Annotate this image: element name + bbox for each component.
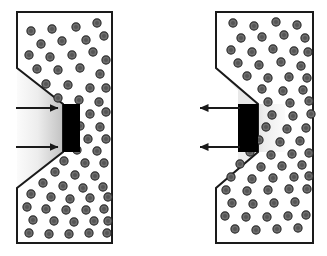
left-wedge	[63, 104, 80, 152]
particle-core	[306, 50, 310, 54]
particle-core	[272, 201, 276, 205]
particle-core	[66, 83, 70, 87]
particle-core	[274, 20, 278, 24]
particle-core	[280, 164, 284, 168]
particle-core	[285, 127, 289, 131]
particle-core	[265, 215, 269, 219]
particle-core	[290, 152, 294, 156]
particle-core	[278, 140, 282, 144]
particle-core	[93, 174, 97, 178]
particle-core	[300, 163, 304, 167]
particle-core	[106, 195, 110, 199]
particle-core	[86, 137, 90, 141]
particle-core	[104, 86, 108, 90]
particle-core	[229, 175, 233, 179]
particle-core	[260, 87, 264, 91]
particle-core	[266, 76, 270, 80]
particle-core	[88, 112, 92, 116]
particle-core	[292, 49, 296, 53]
particle-core	[68, 197, 72, 201]
particle-core	[27, 231, 31, 235]
particle-core	[73, 173, 77, 177]
particle-core	[301, 88, 305, 92]
particle-core	[72, 220, 76, 224]
particle-core	[231, 21, 235, 25]
particle-core	[60, 39, 64, 43]
particle-core	[296, 226, 300, 230]
particle-core	[102, 34, 106, 38]
particle-core	[101, 185, 105, 189]
particle-core	[52, 219, 56, 223]
particle-core	[62, 159, 66, 163]
particle-core	[304, 213, 308, 217]
particle-core	[106, 219, 110, 223]
particle-core	[259, 165, 263, 169]
particle-core	[77, 98, 81, 102]
particle-core	[298, 139, 302, 143]
particle-core	[50, 27, 54, 31]
particle-core	[251, 202, 255, 206]
particle-core	[70, 53, 74, 57]
particle-core	[91, 50, 95, 54]
particle-core	[56, 96, 60, 100]
particle-core	[303, 36, 307, 40]
particle-core	[307, 151, 311, 155]
particle-core	[281, 89, 285, 93]
particle-core	[98, 125, 102, 129]
particle-core	[287, 75, 291, 79]
particle-core	[29, 192, 33, 196]
particle-core	[238, 162, 242, 166]
particle-core	[229, 48, 233, 52]
particle-core	[282, 33, 286, 37]
particle-core	[233, 227, 237, 231]
particle-core	[49, 195, 53, 199]
particle-core	[81, 186, 85, 190]
particle-core	[74, 25, 78, 29]
right-wedge	[238, 104, 258, 152]
particle-core	[88, 196, 92, 200]
particle-core	[250, 177, 254, 181]
particle-core	[98, 72, 102, 76]
particle-core	[48, 55, 52, 59]
particle-core	[239, 36, 243, 40]
particle-core	[104, 110, 108, 114]
particle-core	[56, 68, 60, 72]
particle-core	[244, 215, 248, 219]
particle-core	[83, 161, 87, 165]
particle-core	[307, 174, 311, 178]
particle-core	[95, 149, 99, 153]
particle-core	[257, 63, 261, 67]
particle-core	[41, 181, 45, 185]
particle-core	[31, 218, 35, 222]
particle-core	[61, 184, 65, 188]
particle-core	[102, 207, 106, 211]
particle-core	[304, 126, 308, 130]
particle-core	[279, 60, 283, 64]
particle-core	[223, 214, 227, 218]
particle-core	[305, 187, 309, 191]
particle-core	[104, 58, 108, 62]
figure-canvas	[0, 0, 327, 256]
particle-core	[245, 74, 249, 78]
particle-core	[270, 113, 274, 117]
particle-core	[84, 38, 88, 42]
particle-core	[64, 208, 68, 212]
particle-core	[260, 35, 264, 39]
right-load-arrows[interactable]	[200, 108, 240, 147]
particle-core	[230, 201, 234, 205]
particle-core	[47, 232, 51, 236]
particle-core	[88, 86, 92, 90]
particle-core	[252, 24, 256, 28]
particle-core	[291, 114, 295, 118]
particle-core	[44, 82, 48, 86]
particle-core	[87, 231, 91, 235]
particle-core	[309, 112, 313, 116]
particle-core	[236, 61, 240, 65]
particle-core	[95, 21, 99, 25]
particle-core	[293, 200, 297, 204]
particle-core	[264, 125, 268, 129]
particle-core	[245, 189, 249, 193]
particle-core	[254, 228, 258, 232]
particle-core	[104, 137, 108, 141]
right-specimen	[200, 12, 315, 243]
